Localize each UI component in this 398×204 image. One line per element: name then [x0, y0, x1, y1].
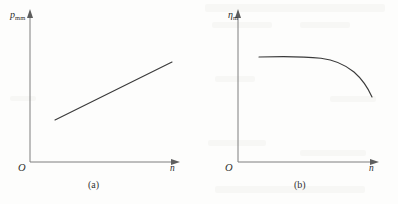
chart-a-x-axis-label: n [170, 164, 175, 174]
chart-b-caption: (b) [294, 180, 306, 190]
chart-b-origin-label: O [225, 163, 233, 174]
chart-b-y-axis-label: ηm [228, 10, 238, 20]
chart-a-y-axis-arrow-icon [27, 9, 33, 18]
chart-a-caption: (a) [88, 180, 99, 190]
chart-panel-a: pmm n O (a) [0, 0, 199, 204]
chart-a-y-axis-label: pmm [10, 10, 26, 20]
chart-a-origin-label: O [18, 163, 26, 174]
figure-container: pmm n O (a) ηm n O (b) [0, 0, 398, 204]
chart-panel-b: ηm n O (b) [199, 0, 398, 204]
chart-b-y-axis-label-subscript: m [233, 14, 238, 21]
chart-b-x-axis-label: n [369, 164, 374, 174]
chart-b-data-curve [259, 57, 372, 97]
chart-a-y-axis-label-subscript: mm [15, 14, 26, 21]
chart-a-data-line [55, 62, 172, 120]
